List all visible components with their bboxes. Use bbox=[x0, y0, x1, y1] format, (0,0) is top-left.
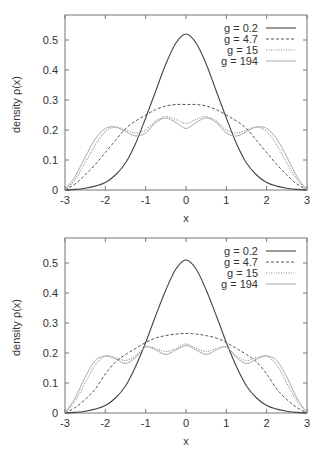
y-tick-label: 0.5 bbox=[43, 34, 58, 46]
series-line-1 bbox=[65, 104, 307, 190]
density-chart-top: -3-2-1012300.10.20.30.40.5xdensity ρ(x)g… bbox=[0, 0, 325, 228]
x-tick-label: 2 bbox=[264, 194, 270, 206]
series-line-3 bbox=[65, 118, 307, 190]
y-tick-label: 0.2 bbox=[43, 347, 58, 359]
x-tick-label: -3 bbox=[60, 194, 70, 206]
x-tick-label: -2 bbox=[100, 417, 110, 429]
y-tick-label: 0.4 bbox=[43, 64, 58, 76]
x-tick-label: 0 bbox=[183, 194, 189, 206]
x-tick-label: -1 bbox=[141, 194, 151, 206]
y-tick-label: 0 bbox=[52, 407, 58, 419]
legend-label: g = 194 bbox=[221, 278, 258, 290]
series-line-0 bbox=[65, 260, 307, 413]
series-line-2 bbox=[65, 116, 307, 190]
x-tick-label: -3 bbox=[60, 417, 70, 429]
y-tick-label: 0.3 bbox=[43, 94, 58, 106]
series-line-2 bbox=[65, 344, 307, 413]
y-tick-label: 0.3 bbox=[43, 317, 58, 329]
y-tick-label: 0.1 bbox=[43, 154, 58, 166]
legend-label: g = 194 bbox=[221, 55, 258, 67]
y-tick-label: 0 bbox=[52, 184, 58, 196]
x-tick-label: -1 bbox=[141, 417, 151, 429]
y-tick-label: 0.4 bbox=[43, 287, 58, 299]
y-tick-label: 0.5 bbox=[43, 257, 58, 269]
x-tick-label: 3 bbox=[304, 417, 310, 429]
x-tick-label: -2 bbox=[100, 194, 110, 206]
y-tick-label: 0.2 bbox=[43, 124, 58, 136]
plot-frame bbox=[65, 238, 307, 413]
plot-frame bbox=[65, 15, 307, 190]
x-tick-label: 1 bbox=[223, 194, 229, 206]
x-tick-label: 1 bbox=[223, 417, 229, 429]
x-tick-label: 3 bbox=[304, 194, 310, 206]
y-axis-label: density ρ(x) bbox=[10, 299, 22, 356]
y-tick-label: 0.1 bbox=[43, 377, 58, 389]
density-chart-bottom: -3-2-1012300.10.20.30.40.5xdensity ρ(x)g… bbox=[0, 228, 325, 455]
x-axis-label: x bbox=[183, 212, 189, 224]
series-line-0 bbox=[65, 34, 307, 190]
x-tick-label: 0 bbox=[183, 417, 189, 429]
x-tick-label: 2 bbox=[264, 417, 270, 429]
x-axis-label: x bbox=[183, 435, 189, 447]
y-axis-label: density ρ(x) bbox=[10, 76, 22, 133]
